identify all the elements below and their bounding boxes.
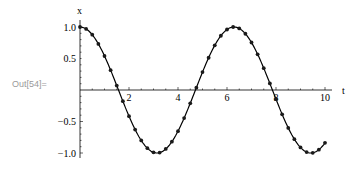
data-point	[305, 150, 309, 154]
y-tick-label: −0.5	[58, 116, 76, 127]
y-tick-label: 1.0	[64, 22, 77, 33]
axes: 2468101.00.5−0.5−1.0	[58, 20, 332, 159]
data-point	[274, 97, 278, 101]
data-point	[243, 32, 247, 36]
data-point	[84, 27, 88, 31]
data-point	[127, 114, 131, 118]
data-point	[237, 27, 241, 31]
data-point	[268, 82, 272, 86]
data-point	[201, 70, 205, 74]
y-tick-label: −1.0	[58, 148, 76, 159]
data-point	[90, 33, 94, 37]
x-tick-label: 2	[127, 92, 132, 103]
data-point	[158, 151, 162, 155]
data-point	[78, 25, 82, 29]
data-point	[145, 146, 149, 150]
data-point	[286, 126, 290, 130]
data-point	[323, 141, 327, 145]
data-point	[176, 129, 180, 133]
data-point	[121, 99, 125, 103]
data-point	[225, 28, 229, 32]
data-point	[170, 140, 174, 144]
data-point	[299, 145, 303, 149]
data-point	[262, 66, 266, 70]
data-point	[231, 25, 235, 29]
x-tick-label: 10	[320, 92, 330, 103]
x-tick-label: 4	[176, 92, 181, 103]
data-point	[280, 112, 284, 116]
data-point	[194, 86, 198, 90]
data-point	[207, 56, 211, 60]
y-tick-label: 0.5	[64, 53, 77, 64]
data-point	[317, 148, 321, 152]
data-point	[250, 41, 254, 45]
data-point	[139, 139, 143, 143]
data-point	[96, 42, 100, 46]
x-tick-label: 6	[225, 92, 230, 103]
y-axis-label: x	[77, 5, 82, 16]
data-point	[311, 151, 315, 155]
data-point	[188, 101, 192, 105]
cos-plot: 2468101.00.5−0.5−1.0 t x	[0, 0, 357, 170]
data-point	[152, 150, 156, 154]
data-point	[219, 34, 223, 38]
data-point	[115, 84, 119, 88]
data-point	[292, 137, 296, 141]
data-point	[133, 128, 137, 132]
data-point	[182, 116, 186, 120]
x-axis-label: t	[342, 85, 345, 96]
data-point	[164, 147, 168, 151]
data-point	[109, 68, 113, 72]
data-point	[103, 54, 107, 58]
data-point	[213, 43, 217, 47]
data-point	[256, 52, 260, 56]
